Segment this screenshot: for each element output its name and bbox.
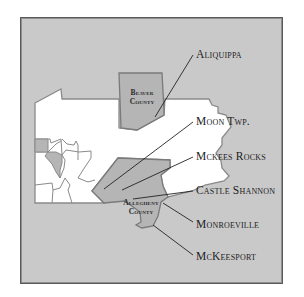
map-canvas xyxy=(0,0,304,297)
allegheny-county-label-line2: County xyxy=(116,208,166,217)
shaded-county-west-1 xyxy=(35,139,48,152)
place-label-castle-shannon: Castle Shannon xyxy=(196,185,275,197)
place-label-aliquippa: Aliquippa xyxy=(196,49,242,61)
leader-monroeville xyxy=(163,203,193,222)
place-label-monroeville: Monroeville xyxy=(196,219,259,231)
leader-mckeesport xyxy=(153,225,193,255)
beaver-county-label: Beaver County xyxy=(122,89,162,106)
place-label-moon-twp: Moon Twp. xyxy=(196,116,250,128)
place-label-mckees-rocks: Mckees Rocks xyxy=(196,151,266,163)
place-label-mckeesport: McKeesport xyxy=(196,251,256,263)
allegheny-county-label: Allegheny County xyxy=(116,199,166,216)
beaver-county-label-line2: County xyxy=(122,98,162,107)
